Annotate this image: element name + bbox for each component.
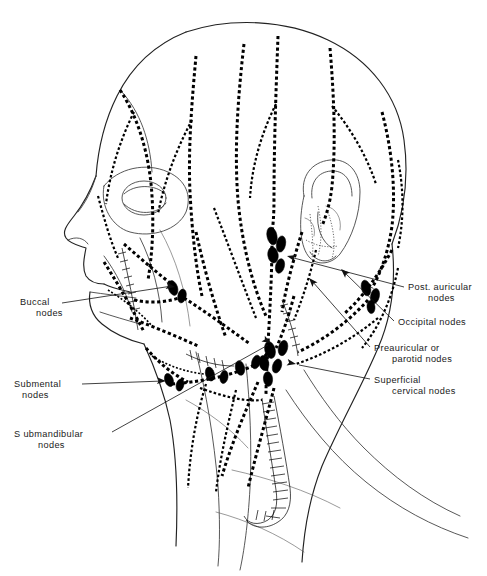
label-line: Occipital nodes	[398, 317, 466, 327]
label-line: cervical nodes	[392, 386, 456, 396]
label-line: Post. auricular	[408, 282, 472, 292]
label-line: nodes	[38, 440, 65, 450]
anatomical-figure: BuccalnodesSubmentalnodesS ubmandibularn…	[0, 0, 487, 576]
label-line: nodes	[22, 390, 49, 400]
label-line: parotid nodes	[392, 354, 452, 364]
label-line: nodes	[428, 293, 455, 303]
lymphatic-drainage-diagram: BuccalnodesSubmentalnodesS ubmandibularn…	[0, 0, 487, 576]
label-line: S ubmandibular	[14, 429, 83, 439]
label-occipital: Occipital nodes	[398, 317, 466, 327]
label-line: Preauricular or	[374, 343, 440, 353]
label-line: nodes	[36, 308, 63, 318]
label-line: Superficial	[374, 375, 421, 385]
label-line: Buccal	[20, 297, 50, 307]
label-line: Submental	[14, 379, 61, 389]
